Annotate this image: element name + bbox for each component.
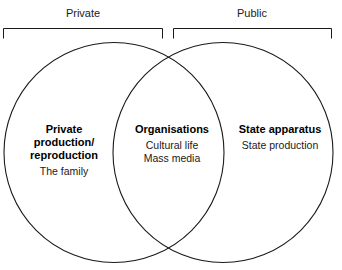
venn-shapes: [0, 0, 342, 270]
venn-diagram-canvas: Private Public Private production/ repro…: [0, 0, 342, 270]
private-circle: [4, 43, 224, 263]
public-bracket: [174, 29, 332, 39]
public-circle: [113, 43, 333, 263]
private-bracket: [4, 29, 163, 39]
